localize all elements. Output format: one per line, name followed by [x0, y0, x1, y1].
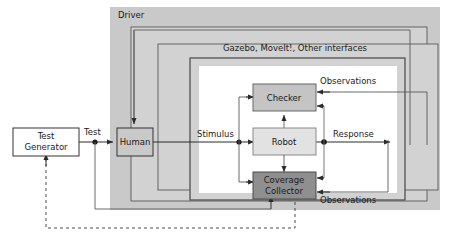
edge-label-response: Response [333, 129, 374, 139]
container-label-driver: Driver [118, 10, 145, 20]
block-label-human: Human [120, 137, 151, 147]
block-label-coverage-line2: Collector [265, 186, 303, 196]
block-label-checker: Checker [267, 93, 302, 103]
block-label-robot: Robot [272, 137, 297, 147]
edge-label-observations-top: Observations [320, 76, 377, 86]
block-label-test-generator-line1: Test [37, 131, 55, 141]
edge-label-observations-bottom: Observations [320, 195, 377, 205]
block-label-coverage-line1: Coverage [264, 175, 305, 185]
container-label-interfaces: Gazebo, MoveIt!, Other interfaces [223, 43, 368, 53]
block-diagram: Driver Gazebo, MoveIt!, Other interfaces [0, 0, 451, 240]
edge-label-test: Test [83, 127, 101, 137]
edge-label-stimulus: Stimulus [197, 129, 235, 139]
block-label-test-generator-line2: Generator [24, 142, 68, 152]
